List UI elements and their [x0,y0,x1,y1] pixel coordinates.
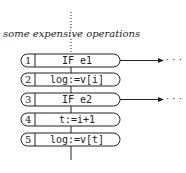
svg-text:IF e2: IF e2 [62,94,92,105]
node-2: 2 log:=v[i] [21,73,120,86]
node-3: 3 IF e2 · · · [21,93,182,106]
node-4: 4 t:=i+1 [21,113,120,126]
svg-text:1: 1 [25,55,31,66]
svg-text:4: 4 [25,114,31,125]
svg-text:log:=v[t]: log:=v[t] [50,134,104,145]
annotation-label: some expensive operations [3,28,140,39]
ellipsis: · · · [166,93,182,104]
node-1: 1 IF e1 · · · [21,54,182,67]
svg-text:log:=v[i]: log:=v[i] [50,74,104,85]
svg-text:IF e1: IF e1 [62,55,92,66]
node-5: 5 log:=v[t] [21,133,120,146]
svg-text:2: 2 [25,74,31,85]
ellipsis: · · · [166,54,182,65]
arrowhead-icon [158,97,164,102]
arrowhead-icon [158,58,164,63]
svg-text:t:=i+1: t:=i+1 [59,114,95,125]
svg-text:3: 3 [25,94,31,105]
svg-text:5: 5 [25,134,31,145]
flow-diagram: some expensive operations 1 IF e1 · · · … [0,0,186,173]
